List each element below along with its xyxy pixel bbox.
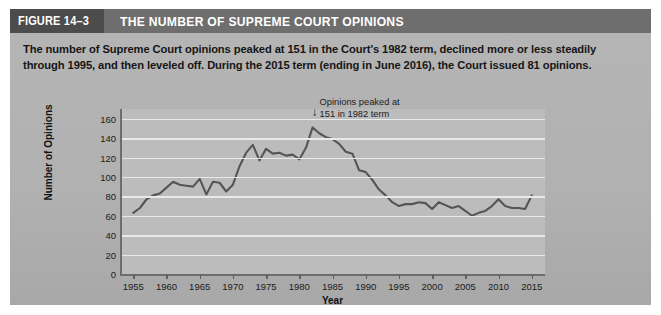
x-axis-tick-label: 1990 <box>355 281 376 292</box>
x-axis-tick-mark <box>366 275 368 279</box>
x-axis-tick-mark <box>465 275 467 279</box>
peak-annotation-line2: 151 in 1982 term <box>320 109 400 121</box>
gridline <box>120 255 545 257</box>
figure-panel: FIGURE 14–3 THE NUMBER OF SUPREME COURT … <box>10 9 651 305</box>
x-axis-tick-mark <box>266 275 268 279</box>
x-axis-tick-mark <box>499 275 501 279</box>
x-axis-tick-label: 1965 <box>189 281 210 292</box>
figure-title-label: THE NUMBER OF SUPREME COURT OPINIONS <box>120 14 404 29</box>
x-axis-tick-mark <box>532 275 534 279</box>
x-axis-title: Year <box>120 295 545 306</box>
figure-caption: The number of Supreme Court opinions pea… <box>23 41 637 73</box>
x-axis-tick-label: 1975 <box>256 281 277 292</box>
x-axis-tick-mark <box>333 275 335 279</box>
figure-number-block: FIGURE 14–3 <box>10 9 104 33</box>
gridline <box>120 138 545 140</box>
gridline <box>120 177 545 179</box>
figure-root: FIGURE 14–3 THE NUMBER OF SUPREME COURT … <box>0 0 661 315</box>
x-axis-tick-label: 2000 <box>422 281 443 292</box>
peak-annotation-line1: Opinions peaked at <box>320 97 400 109</box>
x-axis-tick-mark <box>299 275 301 279</box>
figure-title-block: THE NUMBER OF SUPREME COURT OPINIONS <box>104 9 651 33</box>
x-axis-tick-label: 2010 <box>488 281 509 292</box>
y-axis-tick-label: 120 <box>90 152 116 163</box>
x-axis-tick-label: 1985 <box>322 281 343 292</box>
x-axis-tick-mark <box>200 275 202 279</box>
y-axis-line <box>120 109 122 275</box>
x-axis-tick-label: 1960 <box>156 281 177 292</box>
line-series-svg <box>120 109 545 274</box>
gridline <box>120 216 545 218</box>
peak-annotation-arrow-icon: ↓ <box>312 107 318 117</box>
gridline <box>120 196 545 198</box>
x-axis-tick-mark <box>233 275 235 279</box>
plot-area <box>120 109 545 274</box>
y-axis-tick-label: 20 <box>90 249 116 260</box>
y-axis-tick-labels: 020406080100120140160 <box>86 109 116 275</box>
y-axis-tick-label: 140 <box>90 133 116 144</box>
y-axis-tick-label: 40 <box>90 230 116 241</box>
x-axis-tick-mark <box>166 275 168 279</box>
y-axis-tick-label: 160 <box>90 113 116 124</box>
y-axis-tick-label: 80 <box>90 191 116 202</box>
x-axis-tick-label: 1980 <box>289 281 310 292</box>
gridline <box>120 158 545 160</box>
x-axis-tick-mark <box>399 275 401 279</box>
chart-area: 020406080100120140160 Number of Opinions… <box>10 85 651 305</box>
x-axis-tick-label: 1970 <box>222 281 243 292</box>
x-axis-tick-mark <box>432 275 434 279</box>
x-axis-tick-label: 1955 <box>123 281 144 292</box>
y-axis-tick-label: 0 <box>90 269 116 280</box>
peak-annotation: Opinions peaked at 151 in 1982 term <box>320 97 400 120</box>
x-axis-tick-label: 1995 <box>388 281 409 292</box>
y-axis-title: Number of Opinions <box>43 93 54 213</box>
figure-number-label: FIGURE 14–3 <box>18 14 89 28</box>
y-axis-tick-label: 60 <box>90 210 116 221</box>
gridline <box>120 235 545 237</box>
figure-header-band: FIGURE 14–3 THE NUMBER OF SUPREME COURT … <box>10 9 651 33</box>
line-series-path <box>133 127 531 215</box>
x-axis-tick-label: 2015 <box>521 281 542 292</box>
x-axis-tick-label: 2005 <box>455 281 476 292</box>
y-axis-tick-label: 100 <box>90 171 116 182</box>
x-axis-tick-mark <box>133 275 135 279</box>
